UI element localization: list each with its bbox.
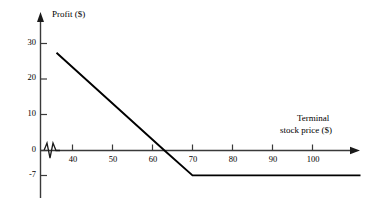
x-tick-label-60: 60 (146, 155, 160, 165)
y-axis-title: Profit ($) (52, 9, 85, 19)
x-tick-label-50: 50 (106, 155, 120, 165)
x-axis-title-line1: Terminal (297, 113, 329, 123)
x-tick-label-80: 80 (226, 155, 240, 165)
y-axis (37, 12, 44, 198)
y-tick-label-0: 0 (16, 145, 36, 155)
x-tick-label-70: 70 (186, 155, 200, 165)
x-tick-label-40: 40 (66, 155, 80, 165)
y-tick-label-20: 20 (16, 73, 36, 83)
y-axis-ticks (41, 44, 48, 176)
y-tick-label-30: 30 (16, 38, 36, 48)
y-tick-label-minus7: -7 (14, 170, 36, 180)
x-axis-ticks (73, 145, 313, 151)
x-tick-label-100: 100 (304, 155, 322, 165)
x-axis-title-line2: stock price ($) (280, 125, 332, 135)
x-tick-label-90: 90 (266, 155, 280, 165)
chart-figure: Profit ($) Terminal stock price ($) 30 2… (0, 0, 373, 215)
y-tick-label-10: 10 (16, 109, 36, 119)
chart-plot-area (0, 0, 373, 215)
